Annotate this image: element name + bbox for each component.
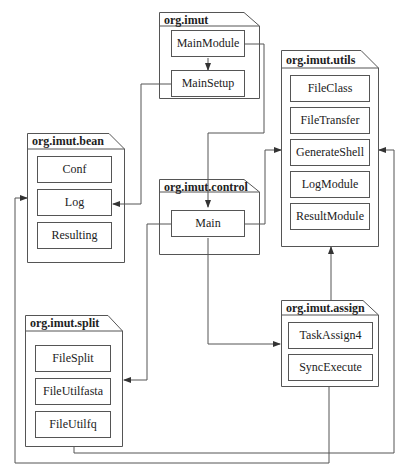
package-title: org.imut — [164, 13, 208, 28]
class-log: Log — [37, 189, 112, 216]
class-filesplit: FileSplit — [35, 345, 111, 372]
package-org-imut-bean: org.imut.bean Conf Log Resulting — [27, 133, 125, 263]
package-org-imut-control: org.imut.control Main — [159, 179, 260, 255]
class-syncexecute: SyncExecute — [288, 354, 373, 381]
package-org-imut-utils: org.imut.utils FileClass FileTransfer Ge… — [281, 50, 379, 247]
class-filetransfer: FileTransfer — [290, 107, 370, 134]
class-conf: Conf — [37, 156, 112, 183]
class-generateshell: GenerateShell — [290, 139, 370, 166]
package-title: org.imut.split — [30, 316, 99, 331]
class-mainmodule: MainModule — [171, 30, 245, 57]
class-mainsetup: MainSetup — [171, 70, 245, 97]
class-logmodule: LogModule — [290, 171, 370, 198]
package-org-imut-assign: org.imut.assign TaskAssign4 SyncExecute — [281, 300, 379, 387]
class-fileutilfasta: FileUtilfasta — [35, 378, 111, 405]
class-resulting: Resulting — [37, 222, 112, 249]
class-fileutilfq: FileUtilfq — [35, 411, 111, 438]
class-fileclass: FileClass — [290, 75, 370, 102]
package-title: org.imut.utils — [286, 53, 355, 68]
class-taskassign4: TaskAssign4 — [288, 322, 373, 349]
package-title: org.imut.control — [164, 180, 248, 195]
package-org-imut-split: org.imut.split FileSplit FileUtilfasta F… — [25, 315, 123, 447]
class-main: Main — [171, 210, 245, 237]
class-resultmodule: ResultModule — [290, 203, 370, 230]
package-title: org.imut.bean — [32, 134, 104, 149]
package-org-imut: org.imut MainModule MainSetup — [159, 12, 260, 99]
package-title: org.imut.assign — [286, 301, 365, 316]
